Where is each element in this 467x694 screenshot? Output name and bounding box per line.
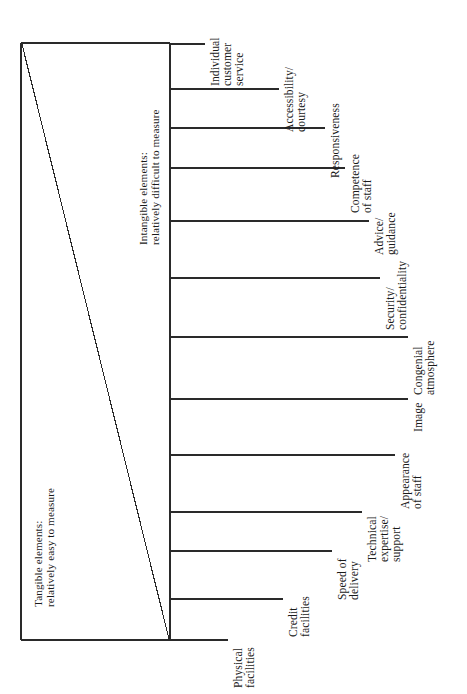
band-label-tangible-line-2: relatively easy to measure <box>45 488 57 607</box>
element-label-technical-expertise-support: Technical expertise/ support <box>367 516 403 562</box>
label-line: Image <box>413 403 425 432</box>
element-label-responsiveness: Responsiveness <box>330 103 342 178</box>
label-line: courtesy <box>296 67 308 132</box>
element-label-congenial-atmosphere: Congenial atmosphere <box>413 341 437 395</box>
element-label-advice-guidance: Advice/ guidance <box>374 212 398 255</box>
element-label-accessibility-courtesy: Accessibility/ courtesy <box>284 67 308 132</box>
element-label-speed-of-delivery: Speed of delivery <box>337 558 361 600</box>
element-label-credit-facilities: Credit facilities <box>288 596 312 637</box>
element-label-individual-customer-service: Individual customer service <box>210 37 246 86</box>
element-label-competence-of-staff: Competence of staff <box>350 154 374 213</box>
label-line: delivery <box>349 558 361 600</box>
label-line: Responsiveness <box>330 103 342 178</box>
label-line: support <box>391 516 403 562</box>
label-line: of staff <box>362 154 374 213</box>
element-label-appearance-of-staff: Appearance of staff <box>400 453 424 509</box>
label-line: service <box>234 37 246 86</box>
element-label-security-confidentiality: Security/ confidentiality <box>385 261 409 330</box>
band-label-intangible-line-1: Intangible elements: <box>138 109 150 245</box>
service-elements-continuum-diagram: Intangible elements: relatively difficul… <box>0 0 467 694</box>
band-label-intangible: Intangible elements: relatively difficul… <box>138 109 161 245</box>
band-label-tangible: Tangible elements: relatively easy to me… <box>33 488 56 607</box>
label-line: facilities <box>300 596 312 637</box>
label-line: facilities <box>245 647 257 688</box>
label-line: of staff <box>412 453 424 509</box>
label-line: guidance <box>386 212 398 255</box>
label-line: atmosphere <box>425 341 437 395</box>
diagram-linework <box>0 0 467 694</box>
band-label-tangible-line-1: Tangible elements: <box>33 488 45 607</box>
label-line: confidentiality <box>397 261 409 330</box>
element-label-physical-facilities: Physical facilities <box>233 647 257 688</box>
element-label-image: Image <box>413 403 425 432</box>
band-label-intangible-line-2: relatively difficult to measure <box>150 109 162 245</box>
